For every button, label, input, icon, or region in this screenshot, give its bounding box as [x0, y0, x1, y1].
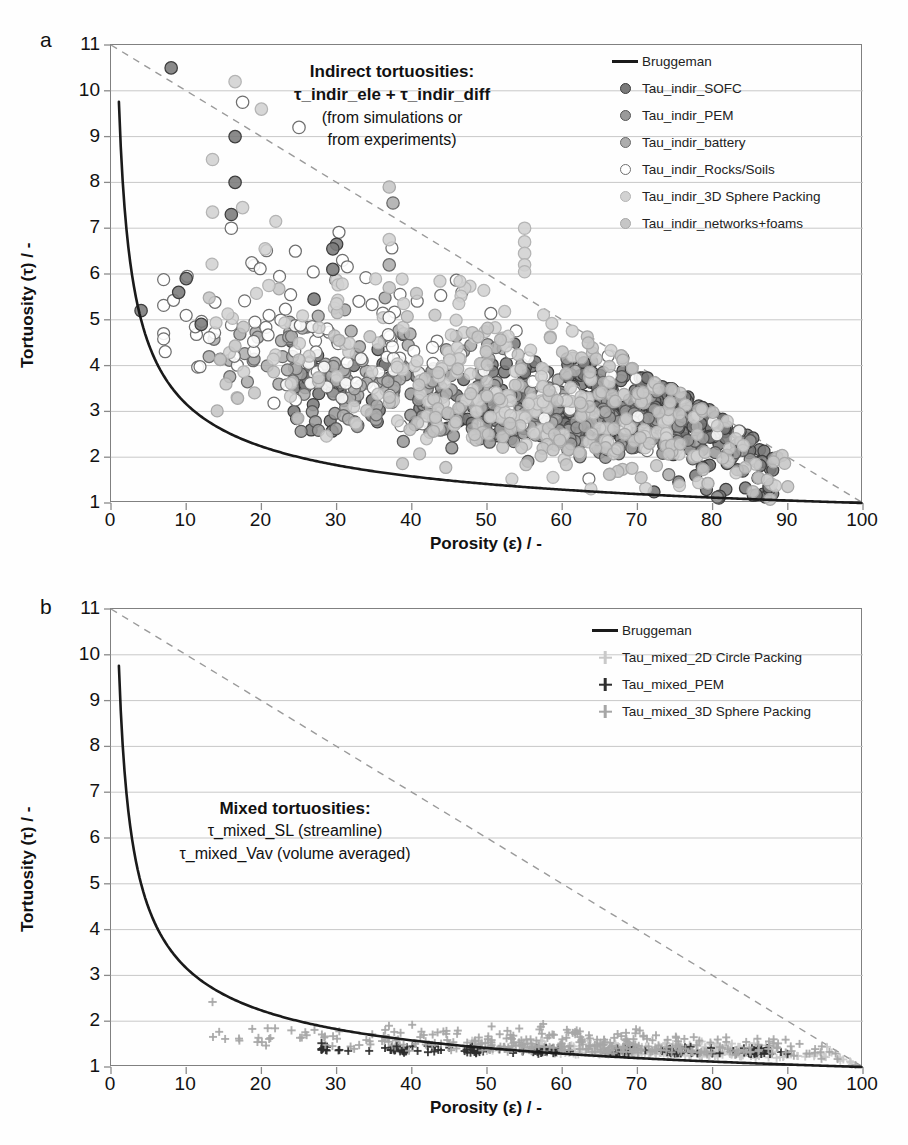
panel-b-y-tick-9: 9 — [66, 689, 100, 711]
panel-a-y-tick-9: 9 — [66, 125, 100, 147]
panel-b-legend-key-plus — [588, 705, 622, 718]
panel-b-x-axis-title: Porosity (ε) / - — [110, 1098, 862, 1118]
panel-a-x-tick-40: 40 — [387, 509, 435, 531]
panel-b-y-tick-6: 6 — [66, 826, 100, 848]
panel-b-x-tick-50: 50 — [462, 1073, 510, 1095]
panel-a-legend-label: Tau_indir_SOFC — [642, 81, 742, 96]
panel-a-x-tick-60: 60 — [537, 509, 585, 531]
panel-a-annotation-line2: τ_indir_ele + τ_indir_diff — [212, 83, 572, 106]
figure-root: a 1234567891011 0102030405060708090100 P… — [0, 0, 908, 1145]
panel-a-legend-key-circle — [608, 137, 642, 148]
panel-a-y-tick-7: 7 — [66, 216, 100, 238]
panel-a-y-tick-2: 2 — [66, 445, 100, 467]
panel-a-y-tick-5: 5 — [66, 308, 100, 330]
panel-b-legend-key-plus — [588, 651, 622, 664]
panel-a-y-tick-3: 3 — [66, 399, 100, 421]
panel-b-x-tick-100: 100 — [838, 1073, 886, 1095]
panel-b-legend-label: Bruggeman — [622, 623, 692, 638]
panel-a-x-tick-50: 50 — [462, 509, 510, 531]
panel-b-x-tick-90: 90 — [763, 1073, 811, 1095]
panel-a-legend-label: Tau_indir_PEM — [642, 108, 734, 123]
panel-a-legend-label: Tau_indir_battery — [642, 135, 746, 150]
panel-a-annotation-line4: from experiments) — [212, 129, 572, 151]
panel-b-letter: b — [40, 595, 52, 619]
panel-a-legend-row-3[interactable]: Tau_indir_battery — [608, 129, 821, 156]
panel-a-legend-circle-icon — [620, 164, 631, 175]
panel-a-legend-circle-icon — [620, 110, 631, 121]
panel-a-legend-key-line — [608, 60, 642, 63]
panel-b-y-tick-3: 3 — [66, 963, 100, 985]
panel-b-legend-label: Tau_mixed_3D Sphere Packing — [622, 704, 811, 719]
panel-b-y-tick-2: 2 — [66, 1009, 100, 1031]
panel-b-legend-plus-icon — [599, 705, 612, 718]
panel-b-annotation-line1: Mixed tortuosities: — [120, 797, 470, 820]
panel-a-annotation-line3: (from simulations or — [212, 107, 572, 129]
panel-a-legend-label: Bruggeman — [642, 54, 712, 69]
panel-a-x-tick-70: 70 — [612, 509, 660, 531]
panel-a-legend-key-circle — [608, 83, 642, 94]
panel-a-legend-row-5[interactable]: Tau_indir_3D Sphere Packing — [608, 183, 821, 210]
panel-b-annotation-line3: τ_mixed_Vav (volume averaged) — [120, 843, 470, 865]
panel-a-legend: BruggemanTau_indir_SOFCTau_indir_PEMTau_… — [608, 48, 821, 237]
panel-a-legend-row-2[interactable]: Tau_indir_PEM — [608, 102, 821, 129]
panel-b-x-tick-60: 60 — [537, 1073, 585, 1095]
panel-b-legend-plus-icon — [599, 651, 612, 664]
panel-a-legend-row-0[interactable]: Bruggeman — [608, 48, 821, 75]
panel-a-legend-circle-icon — [620, 137, 631, 148]
panel-a-legend-row-1[interactable]: Tau_indir_SOFC — [608, 75, 821, 102]
panel-b-y-tick-8: 8 — [66, 734, 100, 756]
panel-a-x-tick-10: 10 — [161, 509, 209, 531]
panel-a-x-tick-90: 90 — [763, 509, 811, 531]
panel-a-y-tick-8: 8 — [66, 170, 100, 192]
panel-a-legend-key-circle — [608, 164, 642, 175]
panel-a-x-tick-20: 20 — [236, 509, 284, 531]
panel-a-legend-circle-icon — [620, 191, 631, 202]
panel-a-legend-key-circle — [608, 218, 642, 229]
panel-a-legend-row-6[interactable]: Tau_indir_networks+foams — [608, 210, 821, 237]
panel-b-y-tick-10: 10 — [66, 643, 100, 665]
panel-b-y-tick-5: 5 — [66, 872, 100, 894]
panel-b-annotation-line2: τ_mixed_SL (streamline) — [120, 820, 470, 842]
panel-a-legend-key-circle — [608, 110, 642, 121]
panel-b-legend-row-1[interactable]: Tau_mixed_2D Circle Packing — [588, 644, 811, 671]
panel-b-x-tick-0: 0 — [86, 1073, 134, 1095]
panel-a-legend-label: Tau_indir_Rocks/Soils — [642, 162, 775, 177]
panel-a-y-tick-4: 4 — [66, 354, 100, 376]
panel-b-legend-key-plus — [588, 678, 622, 691]
panel-b-y-tick-7: 7 — [66, 780, 100, 802]
panel-a-x-tick-0: 0 — [86, 509, 134, 531]
panel-a-legend-line-icon — [612, 60, 638, 63]
panel-b: b 1234567891011 0102030405060708090100 P… — [0, 565, 908, 1145]
panel-b-legend-line-icon — [592, 629, 618, 632]
panel-b-y-tick-4: 4 — [66, 918, 100, 940]
panel-b-x-tick-80: 80 — [688, 1073, 736, 1095]
panel-a-legend-key-circle — [608, 191, 642, 202]
panel-b-x-tick-70: 70 — [612, 1073, 660, 1095]
panel-a-legend-row-4[interactable]: Tau_indir_Rocks/Soils — [608, 156, 821, 183]
panel-b-legend-row-3[interactable]: Tau_mixed_3D Sphere Packing — [588, 698, 811, 725]
panel-a-legend-circle-icon — [620, 218, 631, 229]
panel-b-annotation: Mixed tortuosities: τ_mixed_SL (streamli… — [120, 797, 470, 865]
panel-a-letter: a — [40, 28, 52, 52]
panel-b-y-axis-title: Tortuosity (τ) / - — [18, 807, 38, 932]
panel-a: a 1234567891011 0102030405060708090100 P… — [0, 0, 908, 565]
panel-b-legend-key-line — [588, 629, 622, 632]
panel-b-legend-label: Tau_mixed_2D Circle Packing — [622, 650, 802, 665]
panel-b-legend-row-0[interactable]: Bruggeman — [588, 617, 811, 644]
panel-a-y-tick-11: 11 — [66, 33, 100, 55]
panel-a-annotation-line1: Indirect tortuosities: — [212, 60, 572, 83]
panel-a-x-tick-80: 80 — [688, 509, 736, 531]
panel-b-legend-row-2[interactable]: Tau_mixed_PEM — [588, 671, 811, 698]
panel-b-x-tick-20: 20 — [236, 1073, 284, 1095]
panel-a-x-tick-30: 30 — [312, 509, 360, 531]
panel-a-y-tick-6: 6 — [66, 262, 100, 284]
panel-b-legend-label: Tau_mixed_PEM — [622, 677, 724, 692]
panel-a-y-tick-10: 10 — [66, 79, 100, 101]
panel-b-x-tick-40: 40 — [387, 1073, 435, 1095]
panel-b-y-tick-11: 11 — [66, 597, 100, 619]
panel-a-legend-circle-icon — [620, 83, 631, 94]
panel-b-legend-plus-icon — [599, 678, 612, 691]
panel-b-legend: BruggemanTau_mixed_2D Circle PackingTau_… — [588, 617, 811, 725]
panel-b-x-tick-30: 30 — [312, 1073, 360, 1095]
panel-a-legend-label: Tau_indir_networks+foams — [642, 216, 803, 231]
